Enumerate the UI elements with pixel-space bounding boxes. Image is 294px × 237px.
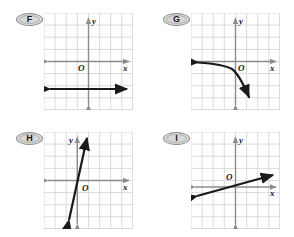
graph-h: y x O [44, 132, 133, 229]
answer-choices-sheet: F [0, 0, 294, 237]
x-axis-label-h: x [122, 182, 128, 192]
answer-choice-f[interactable]: F [0, 0, 147, 118]
choice-badge-label-f: F [16, 13, 43, 26]
graph-f: y x O [44, 13, 133, 110]
origin-label-h: O [82, 183, 89, 193]
y-axis-label-g: y [238, 16, 244, 26]
y-axis-label-h: y [68, 135, 74, 145]
answer-choice-h[interactable]: H [0, 119, 147, 237]
choice-badge-label-h: H [16, 132, 43, 145]
choice-badge-i[interactable]: I [163, 132, 190, 145]
origin-label-i: O [226, 172, 233, 182]
answer-choice-g[interactable]: G [147, 0, 294, 118]
choice-badge-h[interactable]: H [16, 132, 43, 145]
origin-label-f: O [78, 63, 85, 73]
graph-i: y x O [191, 132, 280, 229]
y-axis-label-i: y [238, 135, 244, 145]
choice-badge-label-i: I [163, 132, 190, 145]
x-axis-label-g: x [269, 63, 275, 73]
origin-label-g: O [238, 63, 245, 73]
choice-badge-g[interactable]: G [163, 13, 190, 26]
choice-badge-f[interactable]: F [16, 13, 43, 26]
y-axis-label-f: y [91, 16, 97, 26]
choice-badge-label-g: G [163, 13, 190, 26]
graph-g: y x O [191, 13, 280, 110]
answer-choice-i[interactable]: I [147, 119, 294, 237]
x-axis-label-f: x [122, 63, 128, 73]
x-axis-label-i: x [269, 188, 275, 198]
